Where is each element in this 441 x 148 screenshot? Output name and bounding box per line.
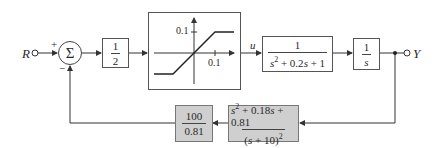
denominator: (s + 10)2 [242,129,284,146]
numerator: 100 [184,110,205,123]
feedback-gain-block: 100 0.81 [175,105,213,142]
denominator: s [362,54,370,68]
minus-sign: − [59,63,65,74]
numerator: s2 + 0.18s + 0.81 [229,101,298,129]
denominator: 0.81 [182,123,205,137]
saturation-block [148,12,241,90]
denominator: 2 [111,53,121,67]
x-tick-label: 0.1 [208,58,221,68]
input-label-r: R [22,47,30,60]
numerator: 1 [111,40,121,53]
output-label-y: Y [413,47,420,60]
denominator: s2 + 0.2s + 1 [268,52,327,69]
numerator: 1 [293,39,303,52]
filter-block: s2 + 0.18s + 0.81 (s + 10)2 [228,105,299,142]
branch-node [393,51,397,55]
gain-half-block: 1 2 [102,38,129,68]
signal-u-label: u [250,39,256,52]
plus-sign: + [51,39,57,50]
sigma-symbol: Σ [66,45,75,62]
input-terminal [32,50,38,56]
numerator: 1 [362,41,372,54]
output-terminal [404,50,410,56]
plant-block: 1 s2 + 0.2s + 1 [262,36,333,72]
y-tick-label: 0.1 [176,26,189,36]
integrator-block: 1 s [353,38,380,70]
